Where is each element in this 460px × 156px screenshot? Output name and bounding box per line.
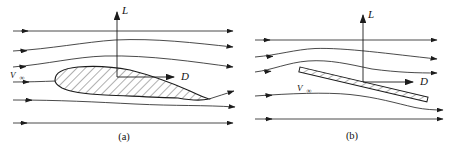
infinity-subscript-icon: ∞ (20, 74, 25, 82)
lift-label-b: L (367, 8, 374, 20)
streamline-a-under (13, 100, 235, 107)
caption-a: (a) (118, 131, 130, 143)
flow-diagram-svg: L D V ∞ (a) L D V ∞ (0, 0, 460, 156)
velocity-letter: V (10, 70, 17, 80)
streamline-a-3 (13, 56, 233, 67)
figure-canvas: L D V ∞ (a) L D V ∞ (0, 0, 460, 156)
velocity-label-b: V ∞ (297, 77, 312, 95)
drag-label-a: D (180, 70, 189, 82)
velocity-letter: V (297, 83, 304, 93)
lift-label-a: L (121, 4, 128, 16)
panel-b: L D V ∞ (b) (255, 8, 443, 142)
drag-label-b: D (419, 75, 428, 87)
streamline-b-2 (255, 48, 437, 59)
flow-arrowhead (264, 71, 271, 72)
streamline-a-wake (209, 91, 234, 99)
panel-a: L D V ∞ (a) (10, 4, 235, 143)
streamline-b-3 (255, 61, 437, 73)
streamline-a-2 (13, 40, 233, 51)
caption-b: (b) (346, 130, 359, 142)
infinity-subscript-icon: ∞ (307, 87, 312, 95)
